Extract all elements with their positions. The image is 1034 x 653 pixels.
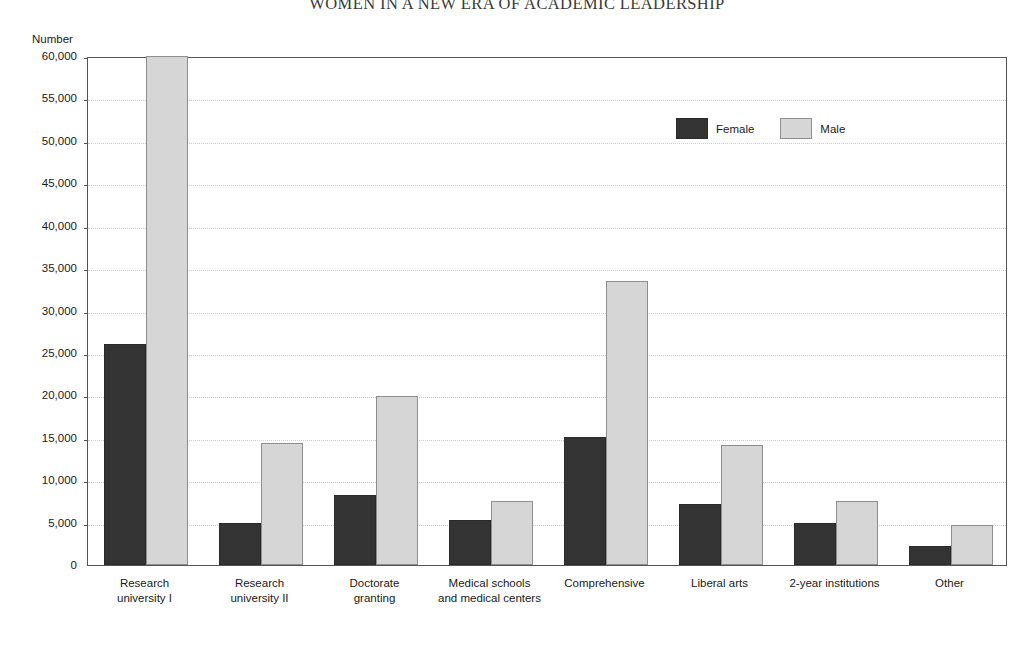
bar-female-5 [679, 504, 721, 565]
y-axis-tick-mark [84, 355, 88, 356]
y-axis-tick-label: 20,000 [5, 391, 77, 403]
bar-male-6 [836, 501, 878, 565]
legend-item-female: Female [676, 118, 754, 139]
y-axis-tick-mark [84, 270, 88, 271]
y-axis-tick-label: 50,000 [5, 136, 77, 148]
y-axis-tick-mark [84, 185, 88, 186]
y-axis-tick-label: 15,000 [5, 433, 77, 445]
legend-swatch-male [780, 118, 812, 139]
bar-male-3 [491, 501, 533, 565]
y-axis-tick-mark [84, 228, 88, 229]
bar-female-1 [219, 523, 261, 565]
gridline [88, 270, 1006, 271]
gridline [88, 228, 1006, 229]
y-axis-tick-label: 35,000 [5, 263, 77, 275]
x-axis-category-label: Other [878, 576, 1021, 591]
y-axis-tick-mark [84, 313, 88, 314]
bar-female-7 [909, 546, 951, 565]
bar-male-1 [261, 443, 303, 565]
y-axis-tick-label: 25,000 [5, 348, 77, 360]
bar-female-0 [104, 344, 146, 565]
y-axis-title: Number [32, 33, 73, 45]
gridline [88, 100, 1006, 101]
legend-item-male: Male [780, 118, 845, 139]
legend-swatch-female [676, 118, 708, 139]
y-axis-tick-label: 5,000 [5, 518, 77, 530]
bar-male-0 [146, 56, 188, 565]
y-axis-tick-mark [84, 525, 88, 526]
bar-male-5 [721, 445, 763, 565]
y-axis-tick-label: 45,000 [5, 179, 77, 191]
gridline [88, 397, 1006, 398]
bar-male-4 [606, 281, 648, 565]
bar-female-3 [449, 520, 491, 565]
bar-chart-figure: Number 05,00010,00015,00020,00025,00030,… [0, 0, 1034, 653]
category-label-line: Other [878, 576, 1021, 591]
gridline [88, 355, 1006, 356]
y-axis-tick-mark [84, 143, 88, 144]
bar-male-7 [951, 525, 993, 565]
y-axis-tick-mark [84, 440, 88, 441]
y-axis-tick-mark [84, 482, 88, 483]
bar-female-4 [564, 437, 606, 565]
bar-female-6 [794, 523, 836, 565]
y-axis-tick-label: 40,000 [5, 221, 77, 233]
y-axis-tick-label: 0 [5, 560, 77, 572]
bar-male-2 [376, 396, 418, 565]
y-axis-tick-label: 30,000 [5, 306, 77, 318]
plot-area [87, 57, 1007, 566]
y-axis-tick-label: 55,000 [5, 94, 77, 106]
legend-label: Male [820, 123, 845, 135]
y-axis-tick-mark [84, 397, 88, 398]
legend-label: Female [716, 123, 754, 135]
bar-female-2 [334, 495, 376, 565]
category-label-line: and medical centers [418, 591, 561, 606]
gridline [88, 185, 1006, 186]
chart-legend: FemaleMale [676, 118, 845, 139]
y-axis-tick-label: 60,000 [5, 51, 77, 63]
gridline [88, 313, 1006, 314]
y-axis-tick-label: 10,000 [5, 475, 77, 487]
y-axis-tick-mark [84, 58, 88, 59]
gridline [88, 482, 1006, 483]
gridline [88, 143, 1006, 144]
gridline [88, 440, 1006, 441]
y-axis-tick-mark [84, 100, 88, 101]
